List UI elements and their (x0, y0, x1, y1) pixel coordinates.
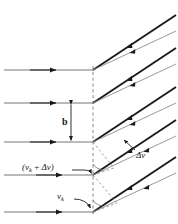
leader-vk (74, 199, 91, 208)
leader-delta-v (124, 140, 135, 150)
paren-close: ) (51, 162, 54, 172)
velocity-base-label: vk (57, 192, 64, 202)
figure-canvas: b (vk + Δv) vk Δv (0, 0, 178, 224)
delta-v-symbol: Δv (41, 162, 50, 172)
outflow-pair-1 (93, 15, 176, 70)
outflow-thick-5 (93, 157, 176, 212)
outflow-thin-4 (93, 136, 176, 175)
construction-lines (93, 142, 117, 212)
outflow-thick-4 (93, 120, 176, 175)
vk-subscript-k: k (61, 195, 64, 202)
leader-vk-plus-dv (72, 170, 92, 174)
outflow-group (93, 15, 176, 212)
streamline-group (4, 70, 93, 212)
gap-label-b: b (62, 117, 68, 127)
leader-arrows (72, 140, 135, 208)
outflow-pair-5 (93, 157, 176, 212)
outflow-thin-5 (93, 173, 176, 212)
delta-v-label: Δv (136, 151, 145, 160)
outflow-pair-4 (93, 120, 176, 175)
diagram-svg (0, 0, 178, 224)
outflow-thick-1 (93, 15, 176, 70)
velocity-plus-delta-label: (vk + Δv) (22, 163, 54, 173)
